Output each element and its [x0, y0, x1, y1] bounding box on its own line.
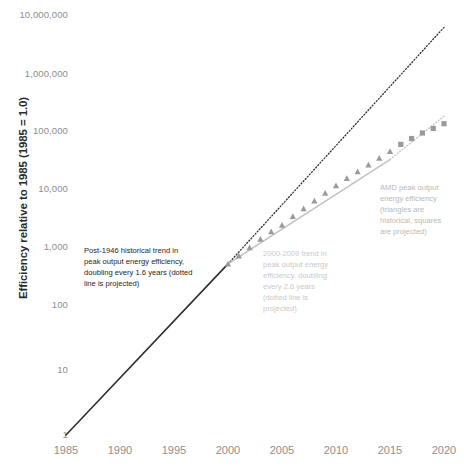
data-point-square	[431, 126, 436, 131]
annotation-amd-series: AMD peak output energy efficiency (trian…	[380, 182, 464, 237]
data-point-triangle	[268, 229, 274, 235]
annotation-2000-2009-trend: 2000-2009 trend in peak output energy ef…	[263, 248, 341, 314]
data-point-triangle	[344, 175, 350, 181]
data-point-square	[398, 142, 403, 147]
data-point-triangle	[290, 213, 296, 219]
data-point-square	[441, 121, 446, 126]
data-point-triangle	[387, 148, 393, 154]
data-point-triangle	[301, 206, 307, 212]
trend-line-3	[390, 116, 444, 159]
data-point-triangle	[311, 198, 317, 204]
data-point-triangle	[247, 245, 253, 251]
data-point-triangle	[365, 162, 371, 168]
data-point-triangle	[376, 155, 382, 161]
annotation-post-1946-trend: Post-1946 historical trend in peak outpu…	[84, 245, 220, 289]
data-point-square	[409, 136, 414, 141]
data-point-triangle	[257, 236, 263, 242]
data-point-triangle	[279, 222, 285, 228]
data-point-square	[420, 130, 425, 135]
chart-figure: Efficiency relative to 1985 (1985 = 1.0)…	[0, 0, 464, 466]
data-point-triangle	[333, 183, 339, 189]
data-point-triangle	[355, 168, 361, 174]
data-point-triangle	[322, 190, 328, 196]
trend-line-0	[66, 264, 228, 435]
